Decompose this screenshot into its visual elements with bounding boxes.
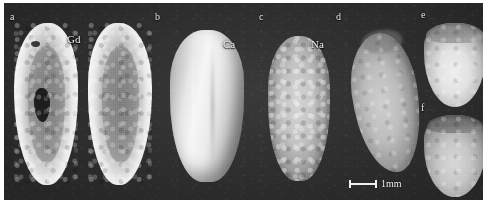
- panel-b-ridge-highlight: [192, 39, 194, 173]
- panel-c-texture: [268, 36, 330, 181]
- figure-container: a b c d e f Gd Ca Na 1mm: [0, 0, 503, 208]
- panel-f-specimen: [424, 115, 483, 197]
- panel-d-texture: [345, 30, 428, 177]
- panel-a-specimen: [14, 23, 152, 185]
- element-label-ca: Ca: [223, 39, 235, 50]
- panel-d-specimen-wrap: [353, 33, 419, 173]
- panel-label-e: e: [421, 10, 425, 20]
- scale-bar-label: 1mm: [381, 179, 402, 189]
- scale-bar-line: [349, 183, 377, 185]
- panel-b-ridge-shadow: [211, 45, 214, 167]
- imaging-plate: a b c d e f Gd Ca Na 1mm: [4, 3, 483, 200]
- panel-label-b: b: [155, 12, 160, 22]
- panel-a-left-texture: [14, 23, 78, 185]
- panel-f-texture: [424, 115, 483, 197]
- element-label-gd: Gd: [67, 34, 80, 45]
- panel-e-specimen: [424, 23, 483, 107]
- panel-e-texture: [424, 23, 483, 107]
- panel-a-right-half: [88, 23, 152, 185]
- panel-c-specimen: [268, 36, 330, 181]
- panel-label-d: d: [336, 12, 341, 22]
- panel-d-specimen: [345, 30, 428, 177]
- panel-b-specimen: [170, 30, 244, 182]
- panel-label-f: f: [421, 103, 424, 113]
- scale-bar: 1mm: [349, 179, 402, 189]
- panel-label-a: a: [10, 12, 14, 22]
- panel-label-c: c: [259, 12, 263, 22]
- panel-a-left-half: [14, 23, 78, 185]
- panel-a-right-texture: [88, 23, 152, 185]
- element-label-na: Na: [311, 39, 324, 50]
